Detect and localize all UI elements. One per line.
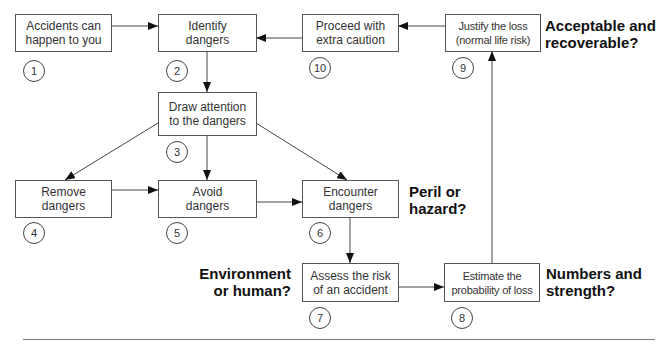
step-number-8: 8 <box>451 307 473 329</box>
node-justify-loss: Justify the loss (normal life risk) <box>445 14 541 52</box>
step-number-3: 3 <box>166 141 188 163</box>
node-avoid-dangers: Avoid dangers <box>158 180 257 218</box>
question-acceptable-and-recoverable: Acceptable and recoverable? <box>545 17 656 51</box>
step-number-6: 6 <box>309 222 331 244</box>
node-draw-attention: Draw attention to the dangers <box>158 92 257 136</box>
question-peril-or-hazard: Peril or hazard? <box>409 183 467 217</box>
bottom-rule <box>23 339 655 340</box>
step-number-5: 5 <box>166 222 188 244</box>
node-remove-dangers: Remove dangers <box>15 180 112 218</box>
question-environment-or-human: Environment or human? <box>197 265 291 299</box>
step-number-2: 2 <box>166 60 188 82</box>
question-numbers-and-strength: Numbers and strength? <box>546 265 642 299</box>
step-number-9: 9 <box>452 57 474 79</box>
node-estimate-probability: Estimate the probability of loss <box>444 263 540 302</box>
node-encounter-dangers: Encounter dangers <box>302 180 399 218</box>
node-identify-dangers: Identify dangers <box>158 14 257 52</box>
step-number-1: 1 <box>23 60 45 82</box>
step-number-10: 10 <box>309 57 331 79</box>
node-proceed-with-caution: Proceed with extra caution <box>302 14 399 52</box>
step-number-7: 7 <box>309 307 331 329</box>
node-assess-risk: Assess the risk of an accident <box>302 263 399 302</box>
node-accidents-can-happen: Accidents can happen to you <box>15 14 112 52</box>
step-number-4: 4 <box>23 222 45 244</box>
